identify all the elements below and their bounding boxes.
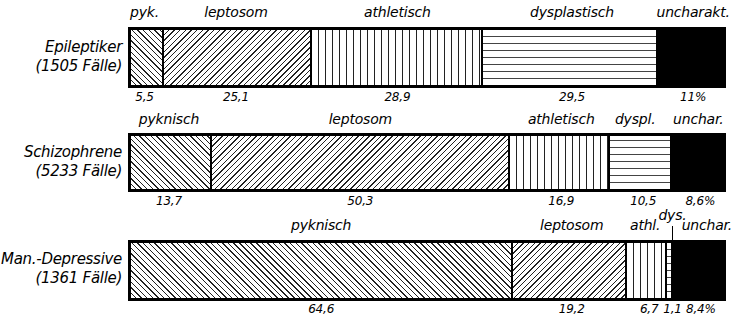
stacked-bar-man-depressive — [128, 240, 726, 301]
bar-segment-dysplastisch — [610, 136, 672, 189]
bar-segment-pyknisch — [131, 30, 164, 85]
bar-segment-uncharakteristisch — [658, 30, 723, 85]
segment-top-label: athl. — [630, 217, 660, 233]
segment-value-label: 25,1 — [223, 90, 249, 104]
segment-top-label: leptosom — [204, 4, 267, 20]
segment-value-label: 8,6% — [685, 194, 715, 208]
segment-top-label: leptosom — [540, 217, 603, 233]
bar-segment-uncharakteristisch — [673, 243, 723, 298]
segment-top-label: leptosom — [329, 111, 392, 127]
segment-top-label: unchar. — [673, 111, 723, 127]
bar-segment-uncharakteristisch — [672, 136, 723, 189]
segment-value-label: 19,2 — [559, 302, 585, 316]
bar-segment-athletisch — [627, 243, 667, 298]
leader-line — [672, 226, 673, 248]
segment-top-label: pyknisch — [291, 217, 351, 233]
bar-segment-dysplastisch — [483, 30, 658, 85]
bar-segment-leptosom — [164, 30, 313, 85]
segment-value-label: 64,6 — [308, 302, 334, 316]
bar-segment-leptosom — [212, 136, 510, 189]
row-label-title: Man.-Depressive — [0, 250, 122, 269]
stacked-bar-epileptiker — [128, 27, 726, 88]
segment-value-label: 28,9 — [384, 90, 410, 104]
row-label-count: (5233 Fälle) — [0, 162, 122, 181]
row-label-count: (1361 Fälle) — [0, 269, 122, 288]
row-label-epileptiker: Epileptiker (1505 Fälle) — [0, 38, 122, 76]
row-label-title: Epileptiker — [0, 38, 122, 57]
segment-top-label: pyk. — [130, 4, 159, 20]
segment-value-label: 11% — [680, 90, 706, 104]
bar-segment-pyknisch — [131, 136, 212, 189]
row-label-title: Schizophrene — [0, 143, 122, 162]
segment-top-label: athletisch — [528, 111, 595, 127]
stacked-bar-schizophrene — [128, 133, 726, 192]
segment-value-label: 5,5 — [135, 90, 153, 104]
bar-segment-athletisch — [510, 136, 610, 189]
segment-top-label: athletisch — [364, 4, 431, 20]
segment-value-label: 29,5 — [559, 90, 585, 104]
row-label-count: (1505 Fälle) — [0, 57, 122, 76]
segment-value-label: 13,7 — [156, 194, 182, 208]
segment-top-label: dyspl. — [615, 111, 656, 127]
bar-segment-athletisch — [312, 30, 483, 85]
segment-top-label: pyknisch — [139, 111, 199, 127]
segment-value-label: 1,1 — [663, 302, 681, 316]
segment-value-label: 10,5 — [630, 194, 656, 208]
bar-segment-leptosom — [513, 243, 627, 298]
segment-top-label: unchar. — [682, 217, 732, 233]
segment-top-label: uncharakt. — [656, 4, 729, 20]
segment-value-label: 6,7 — [640, 302, 658, 316]
segment-value-label: 16,9 — [548, 194, 574, 208]
row-label-schizophrene: Schizophrene (5233 Fälle) — [0, 143, 122, 181]
segment-value-label: 8,4% — [686, 302, 716, 316]
row-label-man-depressive: Man.-Depressive (1361 Fälle) — [0, 250, 122, 288]
segment-top-label: dysplastisch — [530, 4, 614, 20]
segment-value-label: 50,3 — [347, 194, 373, 208]
bar-segment-pyknisch — [131, 243, 513, 298]
